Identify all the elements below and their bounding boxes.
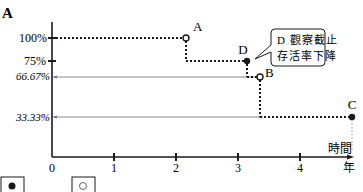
point-label-b: B bbox=[265, 65, 274, 80]
x-label-3: 3 bbox=[235, 161, 241, 175]
point-label-d: D bbox=[238, 42, 247, 57]
legend-filled-circle-icon bbox=[9, 183, 16, 190]
survival-step-chart: A 100% 75% 66.67% 33.33% 0 1 2 3 4 時間 年 bbox=[0, 0, 363, 192]
point-c-filled-circle-icon bbox=[349, 114, 355, 120]
callout-line-1: D 觀察截止 bbox=[277, 33, 338, 46]
point-b-open-circle-icon bbox=[257, 74, 263, 80]
point-label-a: A bbox=[193, 19, 203, 34]
x-label-0: 0 bbox=[49, 161, 55, 175]
point-d-filled-circle-icon bbox=[244, 58, 250, 64]
x-label-1: 1 bbox=[111, 161, 117, 175]
y-label-66: 66.67% bbox=[16, 70, 50, 82]
x-label-2: 2 bbox=[173, 161, 179, 175]
legend-open bbox=[72, 177, 95, 192]
legend-open-circle-icon bbox=[80, 183, 87, 190]
x-axis-title-bottom: 年 bbox=[343, 161, 355, 175]
point-a-open-circle-icon bbox=[183, 35, 189, 41]
point-label-c: C bbox=[348, 97, 357, 112]
x-label-4: 4 bbox=[297, 161, 303, 175]
legend-filled bbox=[1, 177, 24, 192]
y-label-33: 33.33% bbox=[15, 111, 50, 123]
x-axis-title-top: 時間 bbox=[328, 142, 352, 156]
y-label-75: 75% bbox=[24, 54, 46, 68]
panel-label: A bbox=[2, 5, 13, 21]
y-label-100: 100% bbox=[19, 31, 47, 45]
callout-line-2: 存活率下降 bbox=[277, 49, 337, 62]
